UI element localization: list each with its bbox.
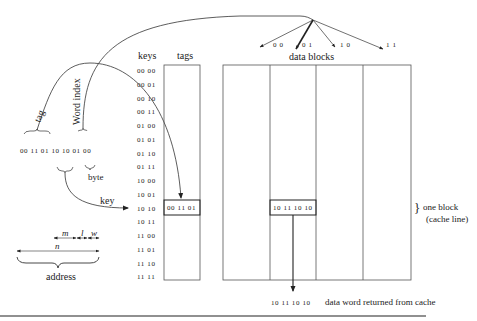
- key-row-label: 00 10: [137, 95, 156, 103]
- word-selector-11: 1 1: [386, 41, 397, 49]
- word-selector-10: 1 0: [340, 41, 351, 49]
- key-row-label: 01 00: [137, 122, 156, 130]
- key-row-label: 01 10: [137, 150, 156, 158]
- keys-list: 00 0000 0100 1000 1101 0001 0101 1001 11…: [137, 67, 156, 281]
- selected-data-word: 10 11 10 10: [273, 204, 313, 212]
- key-row-label: 00 01: [137, 81, 156, 89]
- key-row-label: 01 01: [137, 136, 156, 144]
- cache-line-label: (cache line): [426, 214, 468, 224]
- one-block-brace: }: [414, 200, 420, 215]
- cache-diagram: tag Word index 00 11 01 10 10 01 00 byte…: [0, 0, 477, 321]
- field-l-label: l: [81, 228, 84, 238]
- selected-tag-value: 00 11 01: [167, 204, 196, 212]
- field-n-label: n: [55, 241, 60, 251]
- key-row-label: 11 00: [137, 232, 156, 240]
- word-selector-00: 0 0: [273, 41, 284, 49]
- address-bits: 00 11 01 10 10 01 00: [20, 147, 91, 155]
- key-row-label: 10 00: [137, 177, 156, 185]
- one-block-label: one block: [423, 202, 459, 212]
- key-row-label: 11 11: [137, 273, 155, 281]
- key-row-label: 10 10: [137, 205, 156, 213]
- word-selector-arrow-10: [313, 20, 335, 47]
- tag-label: tag: [32, 108, 47, 123]
- tag-curve: [37, 63, 181, 198]
- key-row-label: 11 10: [137, 260, 156, 268]
- address-brace: [17, 257, 99, 268]
- key-row-label: 11 01: [137, 246, 156, 254]
- key-row-label: 01 11: [137, 163, 156, 171]
- returned-word: 10 11 10 10: [271, 299, 311, 307]
- word-index-curve: [83, 16, 313, 128]
- data-blocks-area: [223, 65, 411, 280]
- word-index-brace: [78, 128, 87, 131]
- word-index-label: Word index: [71, 78, 82, 125]
- keys-header: keys: [138, 50, 156, 61]
- key-row-label: 00 00: [137, 67, 156, 75]
- key-row-label: 10 01: [137, 191, 156, 199]
- key-label: key: [100, 195, 114, 206]
- address-label: address: [46, 271, 76, 282]
- key-row-label: 10 11: [137, 218, 156, 226]
- key-brace: [57, 167, 73, 173]
- tags-column: [164, 65, 200, 280]
- field-w-label: w: [91, 228, 97, 238]
- returned-label: data word returned from cache: [325, 297, 435, 307]
- field-m-label: m: [62, 228, 69, 238]
- byte-brace: [85, 165, 95, 170]
- key-row-label: 00 11: [137, 108, 156, 116]
- byte-label: byte: [88, 172, 104, 182]
- data-blocks-label: data blocks: [289, 51, 334, 62]
- tags-header: tags: [177, 50, 193, 61]
- word-selector-01: 0 1: [302, 41, 313, 49]
- tag-brace: [24, 129, 50, 134]
